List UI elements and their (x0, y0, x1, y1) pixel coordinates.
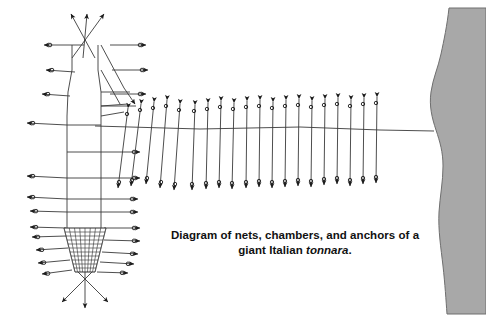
caption-italic-term: tonnara (306, 244, 349, 256)
coastline-shore (430, 8, 486, 314)
shore-tether-line (95, 126, 434, 131)
right-chamber-group (190, 97, 377, 190)
figure-caption: Diagram of nets, chambers, and anchors o… (150, 228, 440, 258)
caption-line-1: Diagram of nets, chambers, and anchors o… (171, 229, 419, 241)
caption-line-2-prefix: giant Italian (238, 244, 306, 256)
left-chamber-group (117, 100, 180, 190)
top-net-arrows (71, 14, 104, 58)
tonnara-diagram-svg (0, 0, 486, 322)
diagram-canvas: Diagram of nets, chambers, and anchors o… (0, 0, 486, 322)
corridor-cross-bars (67, 125, 101, 212)
bottom-net-arrows (62, 272, 108, 308)
right-anchor-cables-corridor (97, 43, 148, 274)
caption-line-2-suffix: . (349, 244, 352, 256)
main-lead-net-corridor (67, 45, 101, 228)
death-chamber-mesh (64, 228, 106, 272)
diagonal-tie-lines (101, 45, 136, 106)
